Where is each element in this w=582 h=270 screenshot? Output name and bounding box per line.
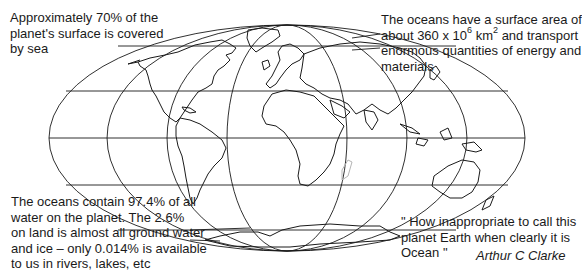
note-line: on land is almost all ground water [11,225,207,241]
continent-australia [432,160,480,198]
exponent: 6 [467,25,472,35]
quote-line: planet Earth when clearly it is [401,230,576,246]
continent-south-america [176,118,226,204]
greenland [247,28,280,52]
continent-europe [266,44,304,88]
exponent: 2 [493,25,498,35]
note-line: materials [381,59,582,75]
note-line: and ice – only 0.014% is available [11,241,207,257]
indonesia-islands [400,124,452,146]
note-text: km [472,28,493,43]
note-text: about 360 x 10 [381,28,467,43]
note-water-distribution: The oceans contain 97.4% of all water on… [11,194,207,270]
note-line: planet's surface is covered [10,26,164,42]
note-text: and transport [498,28,578,43]
note-line: Approximately 70% of the [10,10,164,26]
note-line: by sea [10,41,164,57]
note-line: about 360 x 106 km2 and transport [381,28,582,44]
new-guinea [462,142,482,152]
note-line: The oceans contain 97.4% of all [11,194,207,210]
note-line: to us in rivers, lakes, etc [11,256,207,270]
quote-line: " How inappropriate to call this [401,214,576,230]
note-line: enormous quantities of energy and [381,43,582,59]
british-isles [262,60,270,70]
quote-attribution: Arthur C Clarke [476,248,566,263]
note-ocean-surface-area: The oceans have a surface area of about … [381,12,582,74]
note-line: water on the planet. The 2.6% [11,210,207,226]
indian-subcontinent [364,110,378,130]
note-line: The oceans have a surface area of [381,12,582,28]
note-sea-coverage: Approximately 70% of the planet's surfac… [10,10,164,57]
